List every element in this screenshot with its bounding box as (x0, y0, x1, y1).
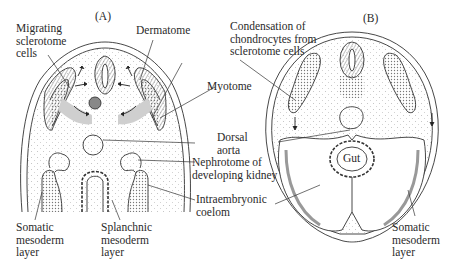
label-dorsal-aorta: Dorsal aorta (217, 131, 248, 156)
panel-a-drawing (21, 42, 191, 212)
label-somatic-mesoderm-a: Somatic mesoderm layer (16, 221, 64, 259)
panel-label-b: (B) (363, 12, 378, 25)
label-dermatome: Dermatome (136, 24, 190, 37)
label-intraembryonic-coelom: Intraembryonic coelom (196, 193, 267, 218)
label-somatic-mesoderm-b: Somatic mesoderm layer (392, 221, 440, 259)
panel-label-a: (A) (95, 10, 111, 23)
label-condensation-of-chondrocytes: Condensation of chondrocytes from sclero… (230, 20, 317, 58)
label-migrating-sclerotome-cells: Migrating sclerotome cells (16, 22, 66, 60)
label-nephrotome: Nephrotome of developing kidney (192, 156, 277, 181)
panel-b-drawing (266, 32, 439, 242)
label-myotome: Myotome (207, 80, 252, 93)
label-gut: Gut (343, 152, 360, 165)
label-splanchnic-mesoderm: Splanchnic mesoderm layer (101, 221, 152, 259)
